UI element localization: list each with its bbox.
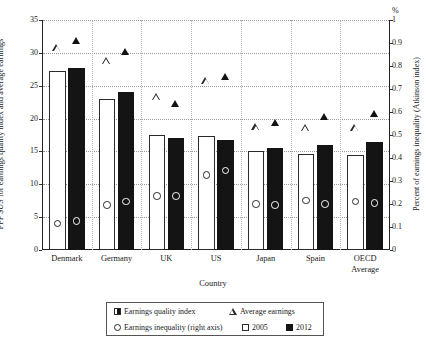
category-separator bbox=[291, 20, 292, 250]
x-axis-title: Country bbox=[0, 279, 426, 288]
triangle-marker-japan-2012 bbox=[271, 119, 279, 126]
circle-marker-japan-2005 bbox=[252, 200, 260, 208]
y-tick-label-left: 25 bbox=[12, 82, 38, 90]
plot-area bbox=[42, 20, 390, 250]
axis-left bbox=[42, 20, 43, 250]
bar-germany-2005 bbox=[99, 99, 116, 250]
y-tick-label-left: 20 bbox=[12, 115, 38, 123]
y-tick-mark-left bbox=[39, 151, 42, 152]
y-tick-mark-right bbox=[390, 227, 393, 228]
y-tick-mark-left bbox=[39, 53, 42, 54]
legend-label: Earnings quality index bbox=[124, 307, 195, 316]
y-tick-mark-right bbox=[390, 135, 393, 136]
circle-marker-germany-2005 bbox=[103, 201, 111, 209]
right-axis-unit-label: % bbox=[392, 6, 399, 15]
gridline bbox=[43, 184, 389, 185]
legend-entry-average-earnings: Average earnings bbox=[229, 307, 295, 316]
legend-entry-2012: 2012 bbox=[286, 323, 312, 332]
triangle-marker-spain-2005 bbox=[301, 124, 309, 131]
category-separator bbox=[141, 20, 142, 250]
legend-label: 2012 bbox=[296, 323, 312, 332]
y-axis-title-left: PPP $US for earnings quality index and a… bbox=[0, 0, 10, 18]
legend-entry-2005: 2005 bbox=[242, 323, 268, 332]
gridline bbox=[43, 86, 389, 87]
white-square-icon bbox=[242, 324, 249, 331]
y-tick-label-right: 0.4 bbox=[392, 154, 418, 162]
half-square-icon bbox=[114, 308, 121, 315]
category-separator bbox=[191, 20, 192, 250]
bar-us-2005 bbox=[198, 136, 215, 250]
open-circle-icon bbox=[114, 324, 121, 331]
circle-marker-japan-2012 bbox=[271, 201, 279, 209]
triangle-marker-uk-2005 bbox=[152, 93, 160, 100]
open-triangle-icon bbox=[229, 308, 237, 315]
y-tick-label-left: 35 bbox=[12, 16, 38, 24]
triangle-marker-germany-2005 bbox=[102, 57, 110, 64]
legend-row-2: Earnings inequality (right axis) 2005 20… bbox=[112, 320, 318, 334]
y-tick-mark-right bbox=[390, 158, 393, 159]
y-tick-label-left: 30 bbox=[12, 49, 38, 57]
triangle-marker-japan-2005 bbox=[252, 123, 260, 130]
y-tick-mark-right bbox=[390, 20, 393, 21]
y-tick-label-right: 1 bbox=[392, 16, 418, 24]
triangle-marker-denmark-2012 bbox=[72, 37, 80, 44]
legend: Earnings quality index Average earnings … bbox=[106, 302, 324, 336]
y-tick-label-right: 0.8 bbox=[392, 62, 418, 70]
y-tick-mark-left bbox=[39, 217, 42, 218]
y-axis-title-left-text: PPP $US for earnings quality index and a… bbox=[0, 18, 5, 250]
legend-entry-earnings-quality-index: Earnings quality index bbox=[114, 307, 195, 316]
y-tick-mark-right bbox=[390, 204, 393, 205]
y-tick-label-right: 0.9 bbox=[392, 39, 418, 47]
y-tick-label-left: 10 bbox=[12, 180, 38, 188]
triangle-marker-denmark-2005 bbox=[53, 44, 61, 51]
y-tick-label-left: 0 bbox=[12, 246, 38, 254]
y-tick-mark-left bbox=[39, 119, 42, 120]
category-separator bbox=[241, 20, 242, 250]
legend-entry-earnings-inequality: Earnings inequality (right axis) bbox=[114, 323, 222, 332]
y-tick-mark-left bbox=[39, 250, 42, 251]
y-tick-label-right: 0 bbox=[392, 246, 418, 254]
y-tick-mark-right bbox=[390, 66, 393, 67]
y-tick-mark-left bbox=[39, 184, 42, 185]
triangle-marker-oecd-average-2005 bbox=[351, 124, 359, 131]
legend-label: Average earnings bbox=[240, 307, 295, 316]
y-tick-mark-left bbox=[39, 20, 42, 21]
gridline bbox=[43, 151, 389, 152]
bar-spain-2012 bbox=[317, 145, 334, 250]
gridline bbox=[43, 53, 389, 54]
y-tick-mark-right bbox=[390, 89, 393, 90]
y-tick-label-right: 0.1 bbox=[392, 223, 418, 231]
y-tick-mark-right bbox=[390, 250, 393, 251]
y-tick-label-left: 15 bbox=[12, 147, 38, 155]
y-tick-mark-right bbox=[390, 181, 393, 182]
circle-marker-uk-2012 bbox=[172, 192, 180, 200]
axis-bottom bbox=[42, 249, 390, 250]
category-separator bbox=[340, 20, 341, 250]
triangle-marker-spain-2012 bbox=[320, 113, 328, 120]
triangle-marker-us-2012 bbox=[221, 73, 229, 80]
y-tick-mark-left bbox=[39, 86, 42, 87]
bar-germany-2012 bbox=[118, 92, 135, 250]
category-separator bbox=[92, 20, 93, 250]
y-tick-label-right: 0.6 bbox=[392, 108, 418, 116]
circle-marker-oecd-average-2012 bbox=[371, 199, 379, 207]
legend-label: Earnings inequality (right axis) bbox=[124, 323, 222, 332]
y-tick-label-right: 0.5 bbox=[392, 131, 418, 139]
bar-japan-2012 bbox=[267, 148, 284, 250]
gridline bbox=[43, 217, 389, 218]
triangle-marker-us-2005 bbox=[202, 77, 210, 84]
circle-marker-denmark-2012 bbox=[73, 217, 81, 225]
y-tick-label-left: 5 bbox=[12, 213, 38, 221]
triangle-marker-uk-2012 bbox=[171, 100, 179, 107]
black-square-icon bbox=[286, 324, 293, 331]
y-tick-mark-right bbox=[390, 112, 393, 113]
x-tick-label-oecd-average: OECDAverage bbox=[330, 254, 400, 275]
circle-marker-uk-2005 bbox=[153, 192, 161, 200]
gridline bbox=[43, 119, 389, 120]
gridline bbox=[43, 20, 389, 21]
circle-marker-spain-2005 bbox=[302, 197, 310, 205]
y-tick-mark-right bbox=[390, 43, 393, 44]
triangle-marker-oecd-average-2012 bbox=[370, 110, 378, 117]
bar-oecd-average-2012 bbox=[366, 142, 383, 250]
chart-figure: PPP $US for earnings quality index and a… bbox=[0, 0, 426, 343]
